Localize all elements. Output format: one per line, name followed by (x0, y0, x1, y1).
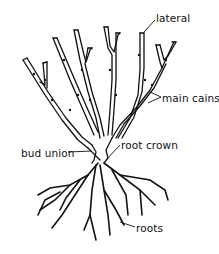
label-roots: roots (136, 223, 163, 234)
label-root-crown: root crown (121, 140, 178, 151)
label-main-cains: main cains (162, 93, 219, 104)
leader-lateral (144, 20, 155, 32)
label-lateral: lateral (156, 13, 190, 24)
rose-plant-illustration (0, 0, 219, 254)
label-bud-union: bud union (21, 148, 75, 159)
thorns-group (33, 54, 167, 111)
leader-roots (120, 222, 135, 227)
